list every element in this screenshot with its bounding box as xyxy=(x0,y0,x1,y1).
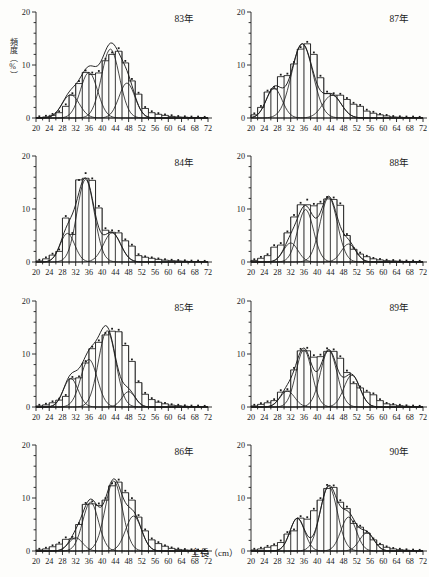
data-marker xyxy=(131,244,133,246)
x-tick-label: 28 xyxy=(58,124,66,133)
data-marker xyxy=(365,109,367,111)
data-marker xyxy=(273,86,275,88)
panel-84年: 01020202428323640444852566064687284年 xyxy=(0,144,215,288)
histogram-bars xyxy=(43,331,175,407)
x-tick-label: 44 xyxy=(326,124,334,133)
y-tick-label: 10 xyxy=(22,494,30,503)
data-marker xyxy=(293,528,295,530)
data-marker xyxy=(204,116,206,118)
data-marker xyxy=(85,70,87,72)
data-marker xyxy=(332,484,334,486)
data-marker xyxy=(385,259,387,261)
data-marker xyxy=(177,403,179,405)
panel-title: 83年 xyxy=(175,13,195,24)
data-marker xyxy=(38,403,40,405)
data-marker xyxy=(171,259,173,261)
data-marker xyxy=(286,231,288,233)
data-marker xyxy=(352,247,354,249)
panel-title: 84年 xyxy=(175,157,195,168)
x-tick-label: 68 xyxy=(405,124,413,133)
y-tick-label: 0 xyxy=(26,114,30,123)
x-tick-label: 64 xyxy=(177,413,185,422)
data-marker xyxy=(359,385,361,387)
data-marker xyxy=(253,112,255,114)
data-marker xyxy=(52,253,54,255)
x-tick-label: 48 xyxy=(339,413,347,422)
chart-3: 01020202428323640444852566064687288年 xyxy=(215,144,429,288)
data-marker xyxy=(392,115,394,117)
x-tick-label: 44 xyxy=(111,413,119,422)
data-marker xyxy=(346,369,348,371)
data-marker xyxy=(273,398,275,400)
data-marker xyxy=(85,360,87,362)
data-marker xyxy=(346,97,348,99)
data-marker xyxy=(266,90,268,92)
data-marker xyxy=(365,530,367,532)
data-marker xyxy=(118,47,120,49)
data-marker xyxy=(339,203,341,205)
data-marker xyxy=(405,404,407,406)
panel-83年: 01020202428323640444852566064687283年 xyxy=(0,0,215,144)
data-marker xyxy=(346,233,348,235)
x-tick-label: 36 xyxy=(299,268,307,277)
data-marker xyxy=(45,257,47,259)
data-marker xyxy=(332,92,334,94)
data-marker xyxy=(326,91,328,93)
data-marker xyxy=(157,112,159,114)
chart-5: 01020202428323640444852566064687289年 xyxy=(215,289,429,433)
x-tick-label: 24 xyxy=(45,413,53,422)
data-marker xyxy=(171,403,173,405)
x-tick-label: 52 xyxy=(138,268,146,277)
y-tick-label: 20 xyxy=(236,152,244,161)
data-marker xyxy=(191,260,193,262)
data-marker xyxy=(118,230,120,232)
chart-0: 01020202428323640444852566064687283年 xyxy=(0,0,214,144)
data-marker xyxy=(118,328,120,330)
chart-2: 01020202428323640444852566064687284年 xyxy=(0,144,214,288)
panel-89年: 01020202428323640444852566064687289年 xyxy=(215,289,429,433)
data-marker xyxy=(105,497,107,499)
x-tick-label: 56 xyxy=(151,268,159,277)
x-tick-label: 40 xyxy=(98,413,106,422)
data-marker xyxy=(65,215,67,217)
x-tick-label: 64 xyxy=(177,268,185,277)
x-tick-label: 72 xyxy=(418,268,426,277)
x-tick-label: 52 xyxy=(352,413,360,422)
data-marker xyxy=(379,113,381,115)
x-tick-label: 56 xyxy=(365,124,373,133)
x-tick-label: 40 xyxy=(98,268,106,277)
data-marker xyxy=(412,260,414,262)
x-tick-label: 64 xyxy=(392,268,400,277)
data-marker xyxy=(151,110,153,112)
data-marker xyxy=(105,332,107,334)
x-tick-label: 72 xyxy=(418,124,426,133)
data-marker xyxy=(38,115,40,117)
data-marker xyxy=(91,345,93,347)
y-tick-label: 10 xyxy=(22,350,30,359)
data-marker xyxy=(398,260,400,262)
data-marker xyxy=(352,102,354,104)
data-marker xyxy=(98,205,100,207)
x-tick-label: 56 xyxy=(151,124,159,133)
data-marker xyxy=(71,536,73,538)
tick-labels: 010202024283236404448525660646872 xyxy=(22,152,212,277)
y-tick-label: 10 xyxy=(236,205,244,214)
x-tick-label: 64 xyxy=(177,124,185,133)
panel-title: 85年 xyxy=(175,302,195,313)
y-tick-label: 0 xyxy=(240,258,244,267)
data-marker xyxy=(253,259,255,261)
x-tick-label: 48 xyxy=(125,268,133,277)
x-tick-label: 44 xyxy=(326,413,334,422)
data-marker xyxy=(71,376,73,378)
data-marker xyxy=(253,403,255,405)
data-marker xyxy=(177,115,179,117)
panel-88年: 01020202428323640444852566064687288年 xyxy=(215,144,429,288)
data-marker xyxy=(392,259,394,261)
data-marker xyxy=(124,490,126,492)
x-tick-label: 36 xyxy=(85,268,93,277)
x-tick-label: 36 xyxy=(299,413,307,422)
x-tick-label: 40 xyxy=(313,268,321,277)
data-marker xyxy=(412,116,414,118)
data-marker xyxy=(339,499,341,501)
data-marker xyxy=(266,400,268,402)
